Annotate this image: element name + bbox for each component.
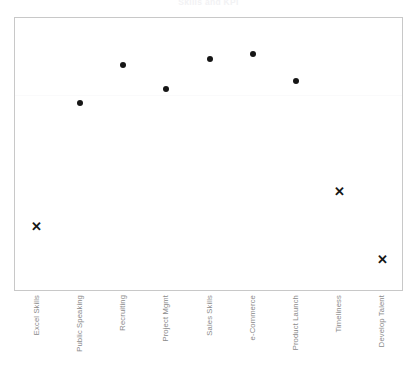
data-point-x-marker[interactable]: ✕ (333, 184, 346, 197)
x-axis-tick-label: Public Speaking (74, 295, 83, 352)
data-point-dot-marker[interactable] (207, 56, 213, 62)
x-axis-tick-label: Product Launch (290, 295, 299, 350)
x-axis-tick-label: Recruiting (118, 295, 127, 331)
chart-container: Skills and KPI ✕✕✕ Excel SkillsPublic Sp… (0, 0, 417, 378)
x-axis-tick-label: Sales Skills (204, 295, 213, 336)
plot-area: ✕✕✕ (14, 17, 403, 291)
data-point-dot-marker[interactable] (293, 78, 299, 84)
data-point-x-marker[interactable]: ✕ (376, 253, 389, 266)
x-axis-tick-label: e-Commerce (247, 295, 256, 340)
chart-title: Skills and KPI (0, 0, 417, 7)
x-axis-tick-labels: Excel SkillsPublic SpeakingRecruitingPro… (0, 291, 417, 378)
gridline-horizontal (15, 95, 402, 96)
data-point-dot-marker[interactable] (163, 86, 169, 92)
x-axis-tick-label: Timeliness (334, 295, 343, 333)
data-point-dot-marker[interactable] (250, 51, 256, 57)
x-axis-tick-label: Excel Skills (31, 295, 40, 335)
data-point-dot-marker[interactable] (77, 100, 83, 106)
x-axis-tick-label: Project Mgmt (161, 295, 170, 342)
data-point-x-marker[interactable]: ✕ (30, 220, 43, 233)
x-axis-tick-label: Develop Talent (377, 295, 386, 347)
data-point-dot-marker[interactable] (120, 62, 126, 68)
